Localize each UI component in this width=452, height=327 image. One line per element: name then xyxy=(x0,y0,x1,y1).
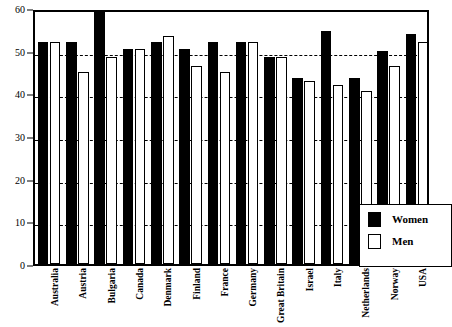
bar-group xyxy=(264,12,287,264)
legend-swatch-women-icon xyxy=(368,212,381,227)
legend-label-women: Women xyxy=(392,214,428,225)
bar-men xyxy=(304,81,315,264)
bar-group xyxy=(321,12,344,264)
bar-women xyxy=(38,42,49,264)
bar-group xyxy=(236,12,259,264)
x-tick-label: Canada xyxy=(136,268,146,300)
y-tick-label: 0 xyxy=(20,261,25,271)
x-tick-label: France xyxy=(221,268,231,297)
bar-women xyxy=(349,78,360,264)
bar-women xyxy=(123,49,134,264)
plot-area: Women Men xyxy=(33,10,429,266)
chart-legend: Women Men xyxy=(359,204,452,267)
x-tick-label: Netherlands xyxy=(362,268,372,318)
bar-women xyxy=(208,42,219,264)
x-tick-label: Norway xyxy=(391,268,401,300)
x-tick-label: Germany xyxy=(249,268,259,307)
y-tick-label: 40 xyxy=(15,90,25,100)
bar-women xyxy=(66,42,77,264)
y-axis: 0102030405060 xyxy=(0,10,33,266)
x-tick-label: Great Britain xyxy=(277,268,287,323)
bar-group xyxy=(179,12,202,264)
bar-group xyxy=(292,12,315,264)
y-tick-label: 60 xyxy=(15,5,25,15)
bar-men xyxy=(220,72,231,264)
x-tick-label: USA xyxy=(419,268,429,287)
bar-group xyxy=(66,12,89,264)
legend-label-men: Men xyxy=(392,236,413,247)
bar-men xyxy=(50,42,61,264)
x-tick-label: Australia xyxy=(51,268,61,306)
bar-men xyxy=(78,72,89,264)
bar-men xyxy=(333,85,344,264)
bar-men xyxy=(191,66,202,264)
bar-men xyxy=(163,36,174,264)
y-tick-label: 50 xyxy=(15,48,25,58)
legend-item-men: Men xyxy=(368,234,451,249)
bar-group xyxy=(151,12,174,264)
bar-women xyxy=(179,49,190,264)
legend-swatch-men-icon xyxy=(368,234,381,249)
bar-women xyxy=(292,78,303,264)
bar-women xyxy=(321,31,332,264)
x-tick-label: Finland xyxy=(193,268,203,300)
x-tick-label: Italy xyxy=(334,268,344,287)
y-tick-label: 20 xyxy=(15,176,25,186)
bar-group xyxy=(123,12,146,264)
bar-men xyxy=(248,42,259,264)
x-tick-label: Denmark xyxy=(164,268,174,307)
legend-item-women: Women xyxy=(368,212,451,227)
bar-women xyxy=(94,12,105,264)
bar-men xyxy=(276,57,287,264)
bar-group xyxy=(94,12,117,264)
bar-women xyxy=(264,57,275,264)
x-tick-label: Austria xyxy=(79,268,89,299)
x-axis-labels: AustraliaAustriaBulgariaCanadaDenmarkFin… xyxy=(33,268,429,327)
y-tick-label: 30 xyxy=(15,133,25,143)
y-tick-label: 10 xyxy=(15,218,25,228)
bar-group xyxy=(38,12,61,264)
bar-men xyxy=(135,49,146,264)
bar-women xyxy=(151,42,162,264)
x-tick-label: Bulgaria xyxy=(108,268,118,303)
bar-group xyxy=(208,12,231,264)
bar-men xyxy=(106,57,117,264)
x-tick-label: Israel xyxy=(306,268,316,291)
bar-women xyxy=(236,42,247,264)
